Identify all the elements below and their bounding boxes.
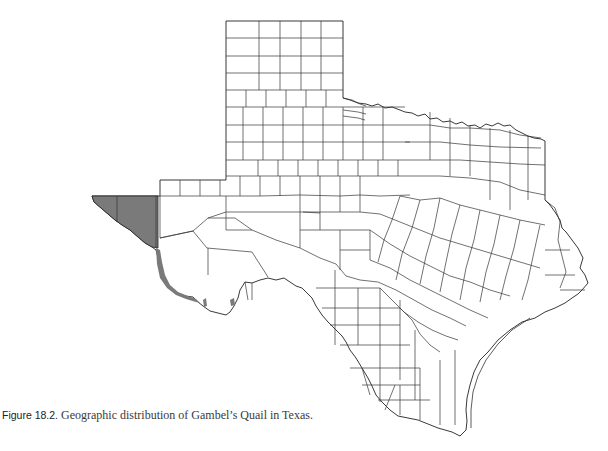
- range-el-paso-hudspeth: [92, 196, 158, 248]
- figure-caption-text: Geographic distribution of Gambel’s Quai…: [58, 408, 313, 422]
- texas-state-outline: [92, 21, 588, 436]
- texas-county-map: [0, 0, 608, 451]
- figure-label: Figure 18.2.: [2, 409, 58, 421]
- figure-caption: Figure 18.2. Geographic distribution of …: [2, 408, 313, 423]
- map-figure: Figure 18.2. Geographic distribution of …: [0, 0, 608, 451]
